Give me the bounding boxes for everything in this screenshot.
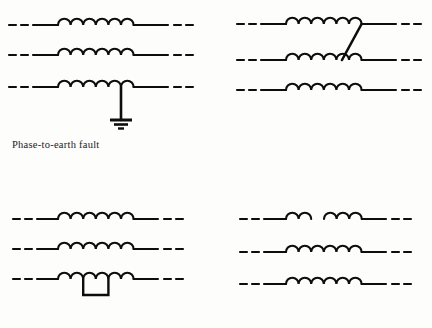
winding-row-2	[237, 54, 421, 60]
winding-row-2	[13, 243, 183, 249]
coil-winding-2	[58, 243, 134, 249]
coil-winding-3	[286, 84, 362, 90]
coil-winding-1-right-section	[324, 213, 362, 219]
winding-row-3	[240, 278, 411, 284]
winding-row-1	[9, 19, 193, 25]
winding-row-3	[13, 273, 183, 279]
earth-ground-icon	[110, 120, 132, 129]
figure-canvas: Phase-to-earth fault	[0, 0, 432, 328]
coil-winding-1	[286, 18, 362, 24]
coil-winding-2	[58, 49, 134, 55]
panel-phase-to-phase: Phase-to-phase fault	[216, 0, 432, 164]
winding-row-1	[240, 213, 411, 219]
winding-row-2	[9, 49, 193, 55]
panel-short-circuited-turns: Short-circuited turns	[0, 190, 216, 328]
coil-winding-2	[286, 246, 362, 252]
caption-phase-to-earth: Phase-to-earth fault	[12, 139, 100, 150]
coil-winding-1-left-section	[286, 213, 311, 219]
coil-winding-3	[58, 81, 134, 87]
winding-row-1	[237, 18, 421, 24]
panel-phase-to-earth: Phase-to-earth fault	[0, 0, 216, 164]
coil-winding-1	[58, 213, 134, 219]
short-circuit-bypass	[83, 279, 108, 295]
coil-winding-3	[58, 273, 134, 279]
coil-winding-1	[58, 19, 134, 25]
winding-row-3	[9, 81, 193, 87]
coil-winding-2	[286, 54, 362, 60]
winding-row-2	[240, 246, 411, 252]
panel-open-circuited-winding: Open-circuited winding	[216, 190, 432, 328]
open-circuited-winding-diagram	[216, 190, 432, 328]
short-circuited-turns-diagram	[0, 190, 216, 328]
winding-row-3	[237, 84, 421, 90]
coil-winding-3	[286, 278, 362, 284]
phase-to-phase-diagram	[216, 0, 432, 164]
winding-row-1	[13, 213, 183, 219]
